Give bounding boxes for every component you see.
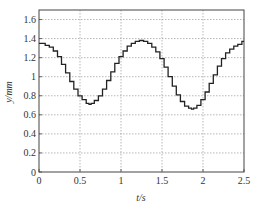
y-tick-label: 0 — [31, 167, 36, 178]
plot-frame — [39, 10, 244, 172]
x-tick-label: 0 — [37, 175, 42, 186]
x-axis-label: t/s — [136, 192, 146, 203]
y-tick-label: 1.4 — [24, 33, 37, 44]
y-tick-label: 0.2 — [24, 147, 37, 158]
x-tick-label: 0.5 — [74, 175, 87, 186]
y-tick-label: 1 — [31, 71, 36, 82]
y-axis-ticks: 00.20.40.60.811.21.41.6 — [24, 14, 43, 177]
x-tick-label: 1.5 — [156, 175, 169, 186]
y-tick-label: 1.2 — [24, 52, 37, 63]
x-tick-label: 1 — [119, 175, 124, 186]
grid — [39, 10, 244, 172]
data-series-line — [39, 41, 244, 110]
y-tick-label: 0.4 — [24, 128, 37, 139]
line-chart: 00.511.522.5 00.20.40.60.811.21.41.6 t/s… — [0, 0, 262, 206]
x-tick-label: 2.5 — [238, 175, 251, 186]
y-axis-label: y/mm — [3, 81, 14, 104]
x-tick-label: 2 — [201, 175, 206, 186]
y-tick-label: 0.6 — [24, 109, 37, 120]
y-tick-label: 0.8 — [24, 90, 37, 101]
y-tick-label: 1.6 — [24, 14, 37, 25]
